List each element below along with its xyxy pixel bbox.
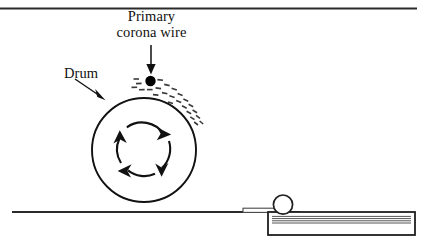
corona-wire-label-line1: Primary [0, 9, 303, 25]
printer-drum-diagram: Primary corona wire Drum [0, 0, 423, 240]
rotation-arrowhead-left-top [113, 130, 126, 143]
rotation-arc-right [162, 141, 170, 168]
corona-wire-label-line2: corona wire [0, 25, 303, 41]
drum-callout-arrowhead [95, 89, 105, 100]
drum-label: Drum [64, 66, 98, 82]
corona-callout-arrow [146, 45, 155, 75]
feed-roller [273, 195, 292, 214]
corona-wire-label: Primary corona wire [0, 9, 303, 40]
drum-callout-arrow [75, 79, 106, 100]
drum-circle [92, 98, 196, 202]
rotation-arrowhead-right-bottom [155, 163, 168, 177]
rotation-arrowheads [113, 127, 171, 177]
corona-callout-arrowhead [146, 64, 155, 75]
corona-wire-dot [145, 76, 155, 86]
rotation-arc-bottom [128, 170, 155, 176]
rotation-arc-left [117, 139, 121, 164]
corona-spray-dashes [132, 79, 204, 125]
rotation-arrowhead-top-right [157, 127, 171, 140]
